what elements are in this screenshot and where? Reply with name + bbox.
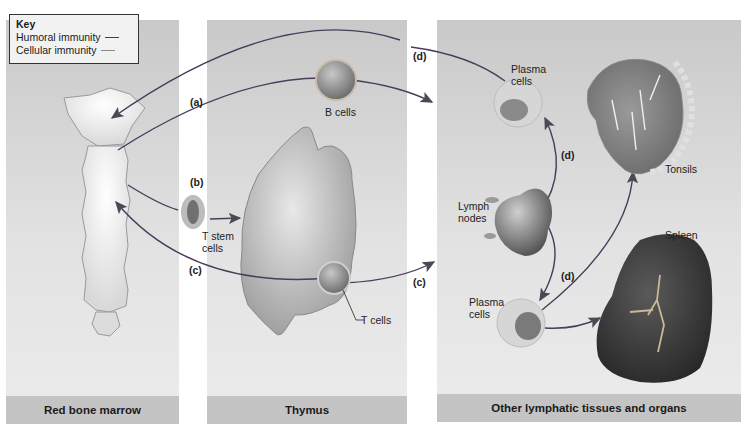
plasma-cells-bottom-label: Plasma cells — [469, 296, 504, 320]
step-d1-label: (d) — [413, 50, 426, 62]
bone-illustration — [64, 88, 145, 336]
step-c2-label: (c) — [413, 276, 426, 288]
step-a-label: (a) — [190, 96, 203, 108]
spleen-icon — [597, 234, 713, 383]
tonsils-icon — [587, 59, 692, 174]
step-b-label: (b) — [190, 176, 203, 188]
b-cell-icon — [316, 60, 356, 100]
legend-title: Key — [16, 18, 132, 31]
step-d2-label: (d) — [561, 149, 574, 161]
spleen-label: Spleen — [665, 229, 698, 241]
b-cells-label: B cells — [325, 106, 356, 118]
lymph-node-icon — [495, 189, 552, 256]
tonsils-label: Tonsils — [665, 163, 697, 175]
plasma-cells-top-label: Plasma cells — [511, 63, 546, 87]
legend-item-humoral: Humoral immunity — [16, 31, 132, 44]
legend-key: Key Humoral immunity Cellular immunity — [9, 14, 139, 64]
humoral-line-icon — [105, 37, 119, 38]
t-cell-icon — [318, 262, 350, 294]
step-c-label: (c) — [189, 264, 202, 276]
t-stem-cells-label: T stem cells — [202, 230, 234, 254]
lymph-nodes-label: Lymph nodes — [458, 200, 489, 224]
cellular-line-icon — [101, 50, 115, 51]
step-d3-label: (d) — [561, 270, 574, 282]
diagram-illustration — [0, 0, 747, 436]
t-cells-label: T cells — [361, 314, 391, 326]
legend-item-cellular: Cellular immunity — [16, 44, 132, 57]
thymus-illustration — [241, 127, 356, 335]
